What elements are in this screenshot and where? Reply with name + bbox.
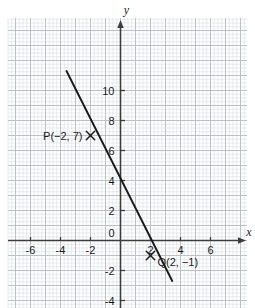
y-axis-tick-label: 2 xyxy=(108,205,114,217)
x-axis-tick-label: 4 xyxy=(177,244,183,256)
origin-label: 0 xyxy=(108,227,114,239)
y-axis-tick-label: 10 xyxy=(102,85,114,97)
y-axis-tick-label: -4 xyxy=(105,295,115,307)
x-axis-tick-label: 6 xyxy=(207,244,213,256)
y-axis-name-label: y xyxy=(123,3,130,17)
point-label-p: P(−2, 7) xyxy=(43,130,82,142)
x-axis-tick-label: -4 xyxy=(56,244,66,256)
y-axis-tick-label: -2 xyxy=(105,265,115,277)
x-axis-name-label: x xyxy=(245,225,252,239)
x-axis-tick-label: -6 xyxy=(26,244,36,256)
point-label-q: Q(2, −1) xyxy=(158,256,199,268)
y-axis-tick-label: 8 xyxy=(108,115,114,127)
x-axis-tick-label: -2 xyxy=(86,244,96,256)
coordinate-plane-svg: xy-6-4-2246108642-2-40P(−2, 7)Q(2, −1) xyxy=(0,0,255,308)
y-axis-tick-label: 4 xyxy=(108,175,114,187)
graph-figure: xy-6-4-2246108642-2-40P(−2, 7)Q(2, −1) xyxy=(0,0,255,308)
